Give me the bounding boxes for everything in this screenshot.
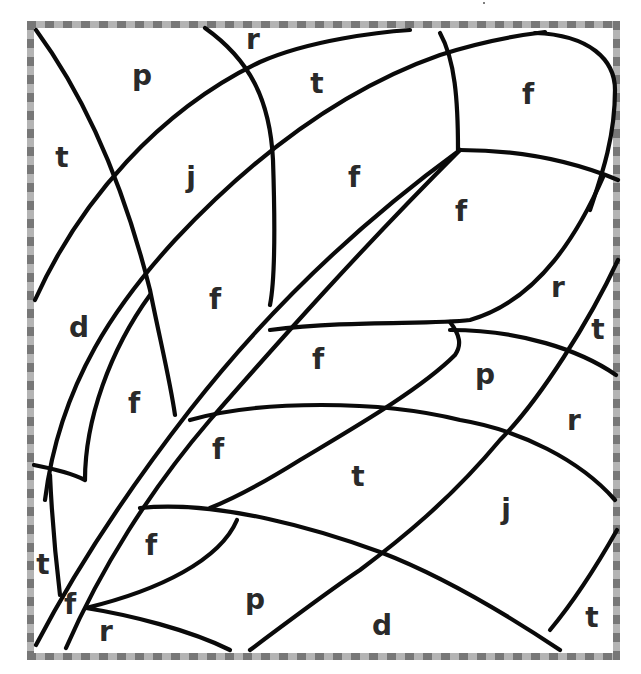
- region-letter-t-right-edge: t: [591, 316, 604, 344]
- vein-right-2: [270, 175, 604, 330]
- region-letter-p-right: p: [475, 361, 495, 389]
- region-letter-r-bottom: r: [99, 618, 113, 646]
- region-letter-t-bottom-left: t: [36, 551, 49, 579]
- vein-arc-3: [205, 28, 274, 305]
- lobe-left-inner: [50, 475, 60, 595]
- leaf-tip-outline: [535, 33, 615, 210]
- region-letter-f-bottom-left: f: [64, 591, 76, 619]
- region-letter-f-center-top: f: [348, 164, 360, 192]
- region-letter-r-top: r: [246, 26, 260, 54]
- region-letter-t-center: t: [351, 463, 364, 491]
- region-letter-t-top: t: [310, 70, 323, 98]
- coloring-page: rptftjffrfdtfpfrftjftpfdrt: [0, 0, 641, 674]
- region-letter-r-right-upper: r: [551, 274, 565, 302]
- leaf-line-art: [0, 0, 641, 674]
- region-letter-j-lower: j: [501, 496, 511, 524]
- region-letter-d-left: d: [69, 314, 89, 342]
- region-letter-p-top: p: [132, 62, 152, 90]
- region-letter-j-upper: j: [186, 164, 196, 192]
- vein-right-1: [460, 150, 618, 180]
- region-letter-f-lower-center: f: [212, 436, 224, 464]
- vein-arc-1: [36, 30, 175, 415]
- vein-right-3: [210, 322, 459, 508]
- region-letter-f-left-mid: f: [128, 390, 140, 418]
- region-letter-f-center: f: [312, 346, 324, 374]
- vein-bottom-right: [550, 530, 617, 630]
- region-letter-f-topright: f: [522, 81, 534, 109]
- region-letter-f-right-upper: f: [455, 198, 467, 226]
- region-letter-p-bottom: p: [245, 586, 265, 614]
- region-letter-f-mid: f: [209, 286, 221, 314]
- region-letter-r-right: r: [567, 407, 581, 435]
- paper-speck: [483, 2, 485, 4]
- region-letter-d-bottom: d: [372, 612, 392, 640]
- vein-arc-4: [45, 32, 545, 500]
- region-letter-t-bottom-right: t: [585, 604, 598, 632]
- region-letter-f-lower-left: f: [145, 532, 157, 560]
- region-letter-t-left: t: [55, 144, 68, 172]
